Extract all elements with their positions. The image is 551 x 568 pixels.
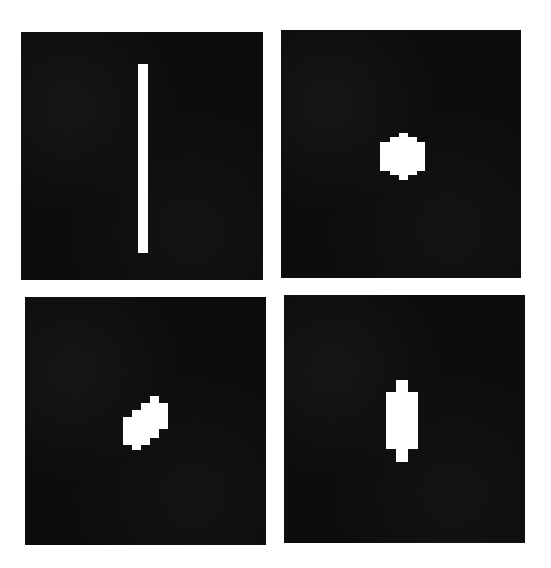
panel-top-left: [21, 32, 263, 280]
slanted-blob-shape: [25, 297, 266, 545]
panel-bottom-right: [284, 295, 525, 543]
elongated-blob-shape: [284, 295, 525, 543]
panel-top-right: [281, 30, 521, 278]
panel-bottom-left: [25, 297, 266, 545]
vertical-bar-shape: [21, 32, 263, 280]
compact-blob-shape: [281, 30, 521, 278]
